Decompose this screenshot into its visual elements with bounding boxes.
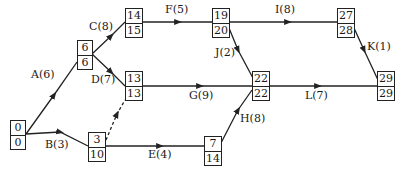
node-latest: 15 — [126, 24, 142, 38]
node-7: 7 14 — [204, 136, 222, 166]
node-29: 29 29 — [377, 71, 395, 101]
node-latest: 10 — [89, 148, 105, 162]
activity-label-l: L(7) — [305, 89, 328, 102]
node-latest: 29 — [378, 87, 394, 101]
node-19: 19 20 — [212, 8, 230, 38]
node-earliest: 29 — [378, 72, 394, 87]
activity-label-c: C(8) — [89, 20, 113, 33]
node-earliest: 0 — [11, 121, 25, 136]
node-latest: 14 — [205, 152, 221, 166]
activity-label-i: I(8) — [275, 3, 295, 16]
node-earliest: 27 — [338, 9, 354, 24]
node-6: 6 6 — [77, 40, 93, 70]
node-earliest: 6 — [78, 41, 92, 56]
activity-label-g: G(9) — [189, 89, 213, 102]
activity-label-a: A(6) — [31, 68, 55, 81]
dummy-arrow — [106, 100, 125, 140]
node-latest: 20 — [213, 24, 229, 38]
arrow-k — [354, 28, 378, 80]
node-latest: 28 — [338, 24, 354, 38]
network-diagram: 0 0 6 6 14 15 13 13 3 10 19 20 22 22 7 1… — [0, 0, 400, 170]
node-latest: 13 — [126, 87, 142, 101]
node-earliest: 14 — [126, 9, 142, 24]
node-27: 27 28 — [337, 8, 355, 38]
node-earliest: 22 — [253, 72, 269, 87]
activity-label-b: B(3) — [45, 138, 69, 151]
activity-label-h: H(8) — [240, 112, 265, 125]
activity-label-d: D(7) — [91, 73, 115, 86]
node-22: 22 22 — [252, 71, 270, 101]
node-earliest: 7 — [205, 137, 221, 152]
node-earliest: 19 — [213, 9, 229, 24]
activity-label-f: F(5) — [165, 3, 188, 16]
node-0: 0 0 — [10, 120, 26, 150]
node-14: 14 15 — [125, 8, 143, 38]
node-earliest: 3 — [89, 133, 105, 148]
node-13: 13 13 — [125, 71, 143, 101]
activity-label-j: J(2) — [215, 46, 235, 59]
node-3: 3 10 — [88, 132, 106, 162]
node-latest: 0 — [11, 136, 25, 150]
node-latest: 22 — [253, 87, 269, 101]
node-earliest: 13 — [126, 72, 142, 87]
node-latest: 6 — [78, 56, 92, 70]
activity-label-e: E(4) — [148, 148, 172, 161]
activity-label-k: K(1) — [367, 40, 391, 53]
